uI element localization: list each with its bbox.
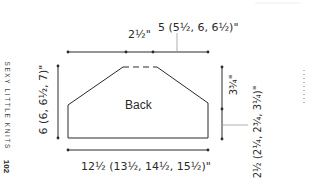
bottom-dimension-line <box>67 149 210 152</box>
neck-width-label: 5 (5½, 6, 6½)" <box>158 22 238 33</box>
bottom-width-label: 12½ (13½, 14½, 15½)" <box>81 161 211 172</box>
book-title-spine: SEXY LITTLE KNITS <box>4 62 11 162</box>
neck-side-width-label: 2½" <box>128 29 151 40</box>
left-dimension-line <box>57 65 60 140</box>
back-title: Back <box>125 99 152 111</box>
armhole-depth-label: 3¾" <box>229 65 239 105</box>
side-height-label: 2½ (2¼, 2¾, 3¼)" <box>253 77 263 186</box>
right-edge-bleed <box>303 70 306 130</box>
page-number: 102 <box>2 157 11 177</box>
total-height-label: 6 (6, 6½, 7)" <box>38 60 49 140</box>
